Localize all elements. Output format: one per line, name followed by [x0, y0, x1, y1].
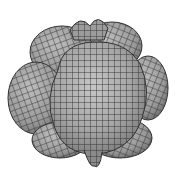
figure-canvas	[0, 0, 180, 183]
lobe-center	[50, 42, 147, 154]
lobe-top-peak	[70, 19, 108, 40]
bottom-fold	[84, 150, 102, 167]
lumpy-sphere-render	[0, 0, 180, 183]
